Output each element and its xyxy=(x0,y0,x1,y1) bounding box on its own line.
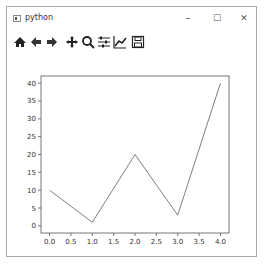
y-tick-label: 40 xyxy=(27,80,36,88)
x-tick-label: 3.0 xyxy=(172,238,183,246)
x-tick-label: 2.0 xyxy=(129,238,140,246)
y-tick-label: 5 xyxy=(32,205,36,213)
y-tick-label: 15 xyxy=(27,169,36,177)
x-tick-label: 4.0 xyxy=(215,238,226,246)
x-tick-label: 1.5 xyxy=(108,238,119,246)
y-tick-label: 20 xyxy=(27,151,36,159)
x-tick-label: 0.0 xyxy=(44,238,55,246)
y-tick-label: 30 xyxy=(27,115,36,123)
line-chart: 0.00.51.01.52.02.53.03.54.00510152025303… xyxy=(0,0,264,264)
x-tick-label: 1.0 xyxy=(87,238,98,246)
y-tick-label: 35 xyxy=(27,97,36,105)
y-tick-label: 10 xyxy=(27,187,36,195)
x-tick-label: 2.5 xyxy=(151,238,162,246)
y-tick-label: 25 xyxy=(27,133,36,141)
x-tick-label: 3.5 xyxy=(194,238,205,246)
y-tick-label: 0 xyxy=(32,222,36,230)
x-tick-label: 0.5 xyxy=(65,238,76,246)
